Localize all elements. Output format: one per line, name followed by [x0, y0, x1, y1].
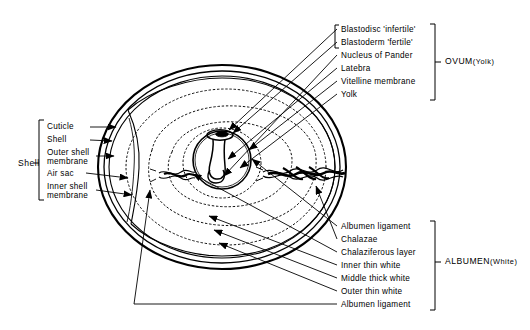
group-label-shell: Shell: [18, 158, 40, 168]
albumen-group-bracket: [430, 221, 441, 310]
label-middle-thick-white: Middle thick white: [341, 274, 410, 283]
blastoderm-shape: [216, 132, 228, 137]
leader-middle-thick-white: [214, 230, 337, 278]
label-outer-shell-membrane-line2: membrane: [47, 157, 88, 166]
middle-thick-white-boundary: [149, 106, 317, 226]
label-inner-thin-white: Inner thin white: [341, 261, 401, 270]
label-nucleus-of-pander: Nucleus of Pander: [341, 51, 413, 60]
chalaziferous-layer-boundary: [183, 128, 261, 198]
group-label-ovum-sub: Yolk: [476, 57, 492, 66]
label-blastoderm: Blastoderm 'fertile': [341, 38, 413, 47]
albumen-leader-lines: [134, 159, 337, 304]
leader-blastoderm: [233, 42, 337, 133]
label-yolk: Yolk: [341, 90, 357, 99]
label-blastodisc: Blastodisc 'infertile': [341, 25, 416, 34]
latebra-outline: [209, 139, 225, 179]
label-albumen-ligament-upper: Albumen ligament: [341, 222, 411, 231]
egg-shell-layers: [98, 65, 346, 269]
leader-air-sac: [86, 173, 128, 178]
label-inner-shell-membrane-line2: membrane: [47, 191, 88, 200]
leader-yolk: [240, 94, 337, 168]
air-sac-membrane-kink: [127, 118, 134, 222]
cuticle-outline: [98, 65, 346, 269]
label-shell: Shell: [47, 135, 66, 144]
group-label-ovum-main: OVUM: [445, 56, 473, 66]
label-chalazae: Chalazae: [341, 235, 378, 244]
label-air-sac: Air sac: [47, 169, 74, 178]
label-latebra: Latebra: [341, 64, 371, 73]
leader-vitelline-membrane: [249, 81, 337, 150]
label-inner-shell-membrane-line1: Inner shell: [47, 182, 88, 191]
ovum-inner-bracket: [335, 25, 339, 48]
label-outer-shell-membrane-line1: Outer shell: [47, 148, 89, 157]
label-vitelline-membrane: Vitelline membrane: [341, 77, 415, 86]
leader-chalaziferous-layer: [193, 174, 337, 252]
egg-anatomy-diagram: Shell Cuticle Shell Outer shell membrane…: [0, 0, 530, 330]
group-label-ovum-paren-close: ): [491, 57, 494, 66]
leader-albumen-ligament-lower: [134, 190, 337, 304]
chalaza-right: [256, 167, 345, 181]
leader-outer-thin-white: [219, 243, 337, 291]
yolk-group: [193, 130, 251, 189]
ovum-leader-lines: [224, 29, 337, 176]
group-label-ovum: OVUM(Yolk): [445, 56, 494, 66]
label-outer-thin-white: Outer thin white: [341, 287, 402, 296]
label-chalaziferous-layer: Chalaziferous layer: [341, 248, 416, 257]
label-albumen-ligament-lower: Albumen ligament: [341, 300, 411, 309]
ovum-group-bracket: [430, 24, 441, 100]
group-label-albumen: ALBUMEN(White): [445, 256, 517, 266]
inner-shell-membrane-outline: [128, 78, 335, 256]
label-cuticle: Cuticle: [47, 122, 74, 131]
yolk-outline: [195, 133, 249, 187]
chalaza-left: [150, 169, 196, 182]
air-sac-boundary: [128, 110, 139, 224]
group-label-albumen-main: ALBUMEN: [445, 256, 490, 266]
group-label-albumen-paren-close: ): [514, 257, 517, 266]
group-label-albumen-sub: White: [493, 257, 514, 266]
